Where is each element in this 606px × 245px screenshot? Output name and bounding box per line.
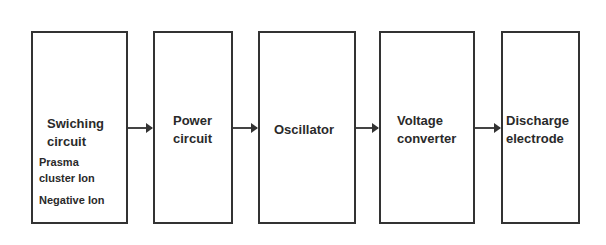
block-voltage-title-line1: Voltage [397,112,443,130]
block-power-title-line1: Power [173,112,212,130]
block-oscillator: Oscillator [258,31,356,224]
arrow-switching-to-power [128,127,152,129]
block-switching-sub-cluster-ion: cluster Ion [39,170,95,186]
block-switching-sub-prasma: Prasma [39,154,79,170]
block-discharge-title-line1: Discharge [506,112,569,130]
block-oscillator-title: Oscillator [274,121,334,139]
block-voltage-converter: Voltage converter [379,31,475,224]
block-discharge-electrode: Discharge electrode [501,31,580,224]
arrow-voltage-to-discharge [475,127,500,129]
block-switching-circuit: Swiching circuit Prasma cluster Ion Nega… [31,31,128,224]
block-switching-sub-negative-ion: Negative Ion [39,192,104,208]
block-voltage-title-line2: converter [397,130,456,148]
block-power-circuit: Power circuit [153,31,233,224]
block-discharge-title-line2: electrode [506,130,564,148]
block-switching-title-line2: circuit [47,133,86,151]
arrow-oscillator-to-voltage [356,127,378,129]
block-power-title-line2: circuit [173,130,212,148]
arrow-power-to-oscillator [233,127,257,129]
block-switching-title-line1: Swiching [47,115,104,133]
